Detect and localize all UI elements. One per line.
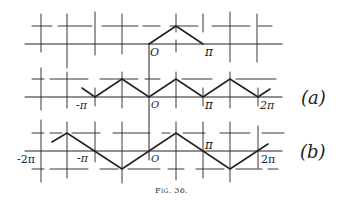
panel-b-label-neg-pi: -π [77,153,88,164]
panel-b-label-pi: π [205,139,213,151]
panel-a-label-neg-pi: -π [76,100,87,111]
top-panel-grid [32,12,272,68]
panel-a-label-origin: O [151,100,159,110]
top-label-pi: π [205,46,213,58]
panel-b-label-neg-2pi: -2π [17,154,35,165]
figure-graphics [0,0,343,206]
panel-b-label-2pi: 2π [261,154,275,165]
panel-b-label-origin: O [151,154,159,164]
panel-a-title: (a) [301,89,326,107]
top-label-origin: O [150,47,159,58]
panel-a-label-pi: π [205,99,213,111]
panel-a-label-2pi: 2π [260,100,274,111]
figure-caption: Fig. 36. [0,186,343,195]
figure-36: O π -π O π 2π (a) -2π -π O π 2π (b) Fig.… [0,0,343,206]
panel-b-title: (b) [300,143,326,161]
